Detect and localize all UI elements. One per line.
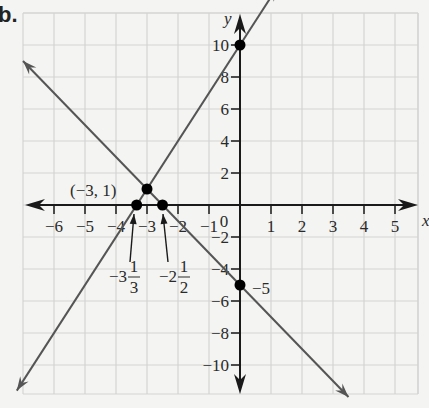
data-point [235, 40, 246, 51]
y-intercept-label: −5 [252, 279, 270, 298]
y-tick-label: 6 [221, 100, 230, 119]
x-intercept-1-label: −313 [109, 257, 140, 297]
y-tick-label: −4 [211, 260, 230, 279]
x-tick-label: −6 [45, 217, 63, 236]
y-tick-label: −10 [202, 356, 229, 375]
svg-text:1: 1 [130, 257, 139, 276]
x-tick-label: 1 [267, 217, 276, 236]
y-tick-label: 8 [221, 68, 230, 87]
svg-text:1: 1 [180, 257, 189, 276]
x-tick-label: 4 [360, 217, 369, 236]
y-tick-label: −8 [211, 324, 229, 343]
svg-text:−3: −3 [109, 267, 127, 286]
svg-text:−2: −2 [159, 267, 177, 286]
x-tick-label: −3 [138, 217, 156, 236]
y-tick-label: 10 [212, 36, 229, 55]
y-tick-label: −6 [211, 292, 229, 311]
intersection-label: (−3, 1) [70, 181, 116, 200]
problem-label: b. [0, 2, 18, 27]
pointer-arrow-icon [161, 214, 168, 224]
y-tick-label: 4 [221, 132, 230, 151]
x-axis-label: x [421, 211, 429, 230]
x-tick-label: 3 [329, 217, 338, 236]
svg-text:2: 2 [180, 278, 189, 297]
data-lines [17, 0, 349, 397]
data-point [131, 200, 142, 211]
y-tick-label: 2 [221, 164, 230, 183]
svg-text:3: 3 [130, 278, 139, 297]
x-intercept-2-label: −212 [159, 257, 190, 297]
origin-label: 0 [220, 212, 229, 231]
x-tick-label: 2 [298, 217, 307, 236]
x-tick-label: 5 [391, 217, 400, 236]
x-tick-label: −5 [76, 217, 94, 236]
coordinate-plane-chart: b. xy −6−5−4−3−2−112345−10−8−6−4−2246810… [0, 0, 429, 408]
y-axis-label: y [222, 9, 232, 28]
data-point [235, 280, 246, 291]
data-point [142, 184, 153, 195]
data-point [157, 200, 168, 211]
